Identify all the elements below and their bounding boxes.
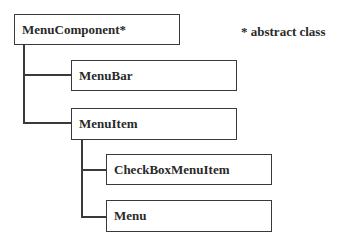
node-label: MenuComponent* <box>22 22 126 38</box>
node-label: MenuItem <box>79 116 138 132</box>
node-menubar: MenuBar <box>71 60 237 91</box>
node-label: Menu <box>114 208 147 224</box>
abstract-class-note: * abstract class <box>241 24 326 40</box>
node-label: CheckBoxMenuItem <box>114 162 230 178</box>
node-checkboxmenuitem: CheckBoxMenuItem <box>106 154 272 185</box>
connector-to-menuitem <box>23 122 71 124</box>
node-menuitem: MenuItem <box>71 108 237 140</box>
connector-to-checkboxmenuitem <box>81 169 106 171</box>
node-menucomponent: MenuComponent* <box>14 14 180 45</box>
node-menu: Menu <box>106 200 272 232</box>
connector-to-menu <box>81 216 106 218</box>
connector-menucomponent-trunk <box>23 44 25 124</box>
node-label: MenuBar <box>79 68 132 84</box>
connector-menuitem-trunk <box>81 140 83 217</box>
connector-to-menubar <box>23 74 71 76</box>
